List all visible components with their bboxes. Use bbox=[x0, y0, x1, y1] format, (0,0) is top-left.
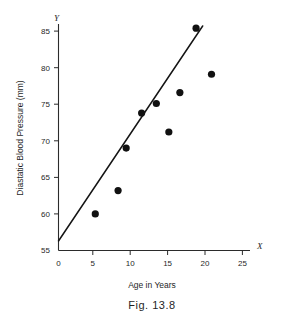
data-point bbox=[114, 187, 121, 194]
data-points-group bbox=[92, 25, 215, 218]
axes-group bbox=[59, 24, 251, 251]
x-tick-label-20: 20 bbox=[201, 259, 210, 268]
x-axis-title: Age in Years bbox=[128, 280, 176, 290]
data-point bbox=[138, 109, 145, 116]
y-tick-label-60: 60 bbox=[41, 210, 50, 219]
y-tick-label-75: 75 bbox=[41, 100, 50, 109]
data-point bbox=[123, 145, 130, 152]
y-tick-labels: 85 80 75 70 65 60 55 bbox=[41, 27, 50, 255]
data-point bbox=[208, 71, 215, 78]
data-point bbox=[165, 128, 172, 135]
x-tick-label-10: 10 bbox=[126, 259, 135, 268]
y-tick-label-80: 80 bbox=[41, 64, 50, 73]
data-point bbox=[153, 100, 160, 107]
figure-caption: Fig. 13.8 bbox=[128, 299, 175, 311]
data-point bbox=[176, 89, 183, 96]
y-tick-label-65: 65 bbox=[41, 173, 50, 182]
data-point bbox=[92, 210, 99, 217]
y-axis-letter: Y bbox=[54, 13, 60, 23]
x-tick-label-5: 5 bbox=[91, 259, 96, 268]
x-tick-group bbox=[93, 251, 243, 256]
x-tick-label-25: 25 bbox=[238, 259, 247, 268]
figure-container: 85 80 75 70 65 60 55 0 5 10 15 20 25 Y X bbox=[0, 0, 290, 323]
x-tick-label-15: 15 bbox=[163, 259, 172, 268]
y-tick-label-85: 85 bbox=[41, 27, 50, 36]
y-tick-group bbox=[54, 31, 59, 214]
y-tick-label-55: 55 bbox=[41, 246, 50, 255]
regression-line bbox=[59, 26, 203, 241]
x-tick-label-0: 0 bbox=[56, 259, 61, 268]
y-axis-title: Diastatic Blood Pressure (mm) bbox=[15, 80, 25, 195]
x-tick-labels: 0 5 10 15 20 25 bbox=[56, 259, 247, 268]
y-tick-label-70: 70 bbox=[41, 137, 50, 146]
x-axis-letter: X bbox=[256, 241, 263, 251]
data-point bbox=[192, 25, 199, 32]
scatter-plot: 85 80 75 70 65 60 55 0 5 10 15 20 25 Y X bbox=[0, 0, 290, 323]
